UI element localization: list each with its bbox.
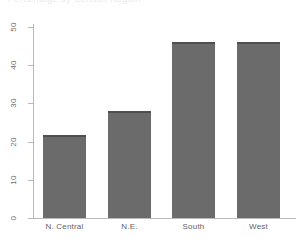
y-tick-mark [28, 142, 33, 143]
x-axis-line [33, 218, 296, 219]
x-tick-label: N.E. [96, 222, 163, 231]
bar [237, 42, 280, 218]
chart-figure: Percentage by Census Region 01020304050 … [0, 0, 302, 239]
x-tick-label: N. Central [31, 222, 98, 231]
x-tick-label: West [225, 222, 292, 231]
y-tick-mark [28, 218, 33, 219]
y-tick-mark [28, 180, 33, 181]
y-tick-label: 50 [9, 22, 18, 32]
y-tick-label: 30 [9, 99, 18, 109]
bar [172, 42, 215, 218]
y-tick-mark [28, 27, 33, 28]
y-tick-label: 20 [9, 137, 18, 147]
y-tick-mark [28, 103, 33, 104]
y-tick-label: 40 [9, 60, 18, 70]
bar [43, 135, 86, 218]
plot-area: 01020304050 N. CentralN.E.SouthWest [0, 0, 302, 239]
y-axis-line [33, 24, 34, 219]
y-tick-mark [28, 65, 33, 66]
y-tick-label: 10 [9, 175, 18, 185]
y-tick-label: 0 [9, 216, 18, 221]
bar [108, 111, 151, 218]
x-tick-label: South [160, 222, 227, 231]
